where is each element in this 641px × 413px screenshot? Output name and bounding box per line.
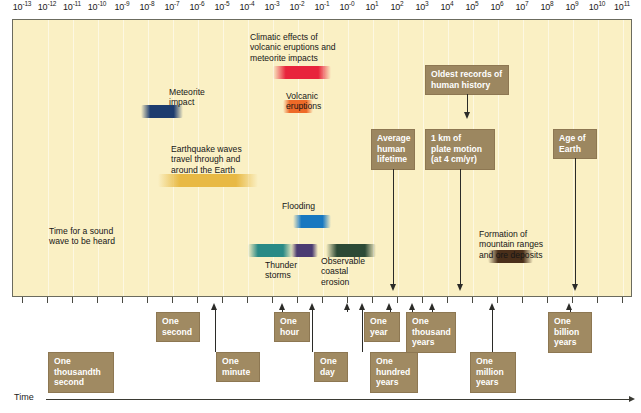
axis-tickmark <box>497 297 498 303</box>
time-scale-box: One hour <box>274 312 310 342</box>
bar-caption: Observable coastal erosion <box>321 256 365 287</box>
axis-tickmark <box>322 297 323 303</box>
time-scale-arrowhead <box>344 303 350 310</box>
axis-tickmark <box>147 297 148 303</box>
axis-tickmark <box>522 297 523 303</box>
time-axis-line <box>46 399 630 400</box>
timeline-bar <box>293 215 331 228</box>
axis-tickmark <box>447 297 448 303</box>
axis-tickmark <box>597 297 598 303</box>
axis-tick-label: 10-11 <box>63 2 81 12</box>
axis-tick-label: 10-1 <box>314 2 329 12</box>
time-scale-arrowhead <box>429 303 435 310</box>
axis-tick-label: 104 <box>440 2 453 12</box>
time-scale-arrow-line <box>362 309 363 352</box>
axis-tick-label: 10-4 <box>239 2 254 12</box>
marker-arrowhead <box>457 284 463 291</box>
marker-arrowhead <box>572 284 578 291</box>
plot-area: Time for a sound wave to be heardMeteori… <box>12 19 632 297</box>
axis-tick-label: 101 <box>365 2 378 12</box>
marker-arrow-line <box>575 158 576 285</box>
axis-tick-label: 107 <box>515 2 528 12</box>
time-scale-arrowhead <box>566 303 572 310</box>
axis-tickmark <box>97 297 98 303</box>
axis-tick-label: 109 <box>565 2 578 12</box>
axis-tickmark <box>397 297 398 303</box>
gridline <box>598 20 599 296</box>
axis-tick-label: 10-6 <box>189 2 204 12</box>
time-axis-label: Time <box>14 392 34 402</box>
axis-tick-labels: 10-1310-1210-1110-1010-910-810-710-610-5… <box>0 0 641 18</box>
gridline <box>548 20 549 296</box>
axis-tickmark <box>122 297 123 303</box>
time-scale-arrowhead <box>359 303 365 310</box>
axis-tick-label: 10-3 <box>264 2 279 12</box>
axis-tickmark <box>47 297 48 303</box>
gridline <box>98 20 99 296</box>
marker-arrowhead <box>464 112 470 119</box>
axis-tickmark <box>272 297 273 303</box>
marker-arrow-line <box>460 169 461 285</box>
axis-tick-label: 108 <box>540 2 553 12</box>
gridline <box>73 20 74 296</box>
time-scale-box: One second <box>156 312 200 342</box>
gridline <box>423 20 424 296</box>
time-scale-arrowhead <box>279 303 285 310</box>
time-scale-box: One hundred years <box>370 352 418 393</box>
marker-box: Oldest records of human history <box>425 65 509 95</box>
time-scale-box: One million years <box>470 352 516 393</box>
gridline <box>623 20 624 296</box>
marker-arrow-line <box>467 94 468 113</box>
gridline <box>148 20 149 296</box>
axis-tick-label: 10-5 <box>214 2 229 12</box>
time-scale-arrowhead <box>386 303 392 310</box>
marker-arrowhead <box>390 284 396 291</box>
time-scale-box: One thousand years <box>406 312 456 353</box>
axis-tick-label: 1010 <box>589 2 605 12</box>
axis-tickmark <box>547 297 548 303</box>
axis-tick-label: 10-9 <box>114 2 129 12</box>
bar-caption: Meteorite impact <box>169 87 205 108</box>
time-axis-arrowhead <box>629 396 635 402</box>
time-scale-box: One year <box>364 312 400 342</box>
bar-caption: Time for a sound wave to be heard <box>49 226 115 247</box>
time-scale-arrowhead <box>309 303 315 310</box>
time-scale-box: One minute <box>216 352 260 382</box>
axis-tickmarks <box>12 297 632 304</box>
axis-tick-label: 106 <box>490 2 503 12</box>
timeline-bar <box>158 174 258 187</box>
bar-caption: Thunder storms <box>265 260 297 281</box>
timeline-bar <box>248 244 293 257</box>
timeline-bar <box>291 244 319 257</box>
time-scale-arrow-line <box>312 309 313 352</box>
axis-tick-label: 10-8 <box>139 2 154 12</box>
axis-tickmark <box>572 297 573 303</box>
axis-tickmark <box>222 297 223 303</box>
axis-tick-label: 10-10 <box>88 2 106 12</box>
bar-caption: Volcanic eruptions <box>286 91 321 112</box>
axis-tick-label: 10-0 <box>339 2 354 12</box>
bar-caption: Climatic effects of volcanic eruptions a… <box>250 32 336 63</box>
axis-tick-label: 105 <box>465 2 478 12</box>
axis-tick-label: 102 <box>390 2 403 12</box>
axis-tick-label: 10-7 <box>164 2 179 12</box>
time-scale-arrowhead <box>489 303 495 310</box>
marker-box: Average human lifetime <box>371 129 415 170</box>
axis-tickmark <box>247 297 248 303</box>
timeline-figure: 10-1310-1210-1110-1010-910-810-710-610-5… <box>0 0 641 413</box>
marker-arrow-line <box>393 169 394 285</box>
axis-tickmark <box>422 297 423 303</box>
axis-tickmark <box>297 297 298 303</box>
bar-caption: Earthquake waves travel through and arou… <box>171 144 242 175</box>
marker-box: 1 km of plate motion (at 4 cm/yr) <box>425 129 495 170</box>
bar-caption: Formation of mountain ranges and ore dep… <box>479 229 543 260</box>
time-scale-arrowhead <box>409 303 415 310</box>
axis-tick-label: 10-12 <box>38 2 56 12</box>
axis-tick-label: 103 <box>415 2 428 12</box>
bar-caption: Flooding <box>282 201 315 211</box>
axis-tickmark <box>197 297 198 303</box>
axis-tickmark <box>22 297 23 303</box>
time-scale-box: One day <box>314 352 348 382</box>
axis-tick-label: 10-2 <box>289 2 304 12</box>
marker-box: Age of Earth <box>553 129 597 159</box>
